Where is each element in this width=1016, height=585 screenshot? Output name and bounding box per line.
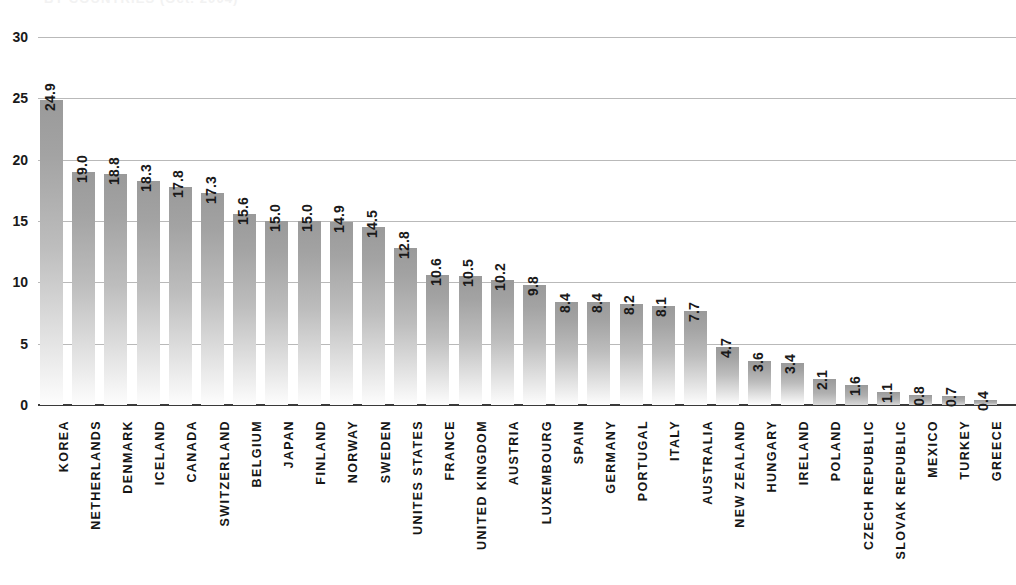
x-axis-label: FRANCE <box>443 420 457 480</box>
x-axis-label: KOREA <box>57 420 71 472</box>
bar-value-label: 19.0 <box>74 155 90 183</box>
bar-value-label: 10.5 <box>460 259 476 287</box>
bar <box>40 100 63 405</box>
bar-value-label: 7.7 <box>686 301 702 321</box>
x-axis-label: LUXEMBOURG <box>540 420 554 524</box>
bar-value-label: 12.8 <box>396 231 412 259</box>
bar-value-label: 3.6 <box>750 352 766 372</box>
x-axis-label: HUNGARY <box>765 420 779 493</box>
bar-value-label: 15.0 <box>267 204 283 232</box>
bar-value-label: 10.2 <box>492 263 508 291</box>
y-axis-tick-label: 30 <box>0 29 28 45</box>
x-axis-label: ICELAND <box>153 420 167 485</box>
x-axis-label: UNITES STATES <box>411 420 425 535</box>
bar <box>72 172 95 405</box>
bar-value-label: 15.0 <box>299 204 315 232</box>
x-axis-label: IRELAND <box>797 420 811 485</box>
x-axis-label: POLAND <box>829 420 843 481</box>
x-axis-label: NORWAY <box>346 420 360 483</box>
bar <box>298 221 321 405</box>
bar <box>394 248 417 405</box>
bar-value-label: 8.1 <box>653 297 669 317</box>
bar-value-label: 14.5 <box>364 210 380 238</box>
bar <box>523 285 546 405</box>
bar-value-label: 14.9 <box>331 205 347 233</box>
x-axis-label: CZECH REPUBLIC <box>862 420 876 550</box>
bar <box>459 276 482 405</box>
x-axis-label: SLOVAK REPUBLIC <box>894 420 908 560</box>
bar <box>330 222 353 405</box>
x-axis-label: PORTUGAL <box>636 420 650 501</box>
bar-value-label: 2.1 <box>814 370 830 390</box>
y-axis-tick-label: 15 <box>0 213 28 229</box>
bar-value-label: 18.8 <box>106 157 122 185</box>
x-axis-label: BELGIUM <box>250 420 264 487</box>
x-axis-label: GREECE <box>990 420 1004 481</box>
x-axis-label: CANADA <box>185 420 199 483</box>
bar <box>491 280 514 405</box>
y-axis-tick-label: 5 <box>0 336 28 352</box>
bar <box>620 304 643 405</box>
bar <box>169 187 192 405</box>
bar <box>137 181 160 405</box>
x-axis-label: SWEDEN <box>379 420 393 483</box>
x-axis-label: DENMARK <box>121 420 135 494</box>
bar <box>426 275 449 405</box>
x-axis-label: MEXICO <box>926 420 940 478</box>
gridline-30 <box>38 37 1016 38</box>
x-axis-label: JAPAN <box>282 420 296 468</box>
bar <box>233 214 256 405</box>
y-axis-tick-label: 10 <box>0 274 28 290</box>
bar-value-label: 17.3 <box>203 176 219 204</box>
bar-value-label: 3.4 <box>782 354 798 374</box>
bar-value-label: 8.4 <box>589 293 605 313</box>
y-axis-tick-label: 0 <box>0 397 28 413</box>
x-axis-label: ITALY <box>668 420 682 461</box>
bar <box>362 227 385 405</box>
x-axis-label: TURKEY <box>958 420 972 480</box>
x-axis-label: AUSTRALIA <box>701 420 715 505</box>
x-axis-label: NEW ZEALAND <box>733 420 747 528</box>
bar <box>265 221 288 405</box>
bar-value-label: 17.8 <box>170 170 186 198</box>
plot-area: 24.919.018.818.317.817.315.615.015.014.9… <box>38 37 1016 405</box>
x-axis-label: FINLAND <box>314 420 328 485</box>
x-axis-label: UNITED KINGDOM <box>475 420 489 550</box>
y-axis-tick-label: 25 <box>0 90 28 106</box>
bar <box>587 302 610 405</box>
x-axis-category-labels: KOREANETHERLANDSDENMARKICELANDCANADASWIT… <box>38 420 1016 585</box>
bar-value-label: 9.8 <box>525 276 541 296</box>
x-axis-label: AUSTRIA <box>507 420 521 485</box>
bar-value-label: 15.6 <box>235 197 251 225</box>
bar-value-label: 24.9 <box>42 82 58 110</box>
bar-value-label: 0.4 <box>975 391 991 411</box>
bar <box>104 174 127 405</box>
bar <box>201 193 224 405</box>
gridline-25 <box>38 98 1016 99</box>
bar-value-label: 1.6 <box>847 376 863 396</box>
bar-value-label: 10.6 <box>428 258 444 286</box>
bar <box>555 302 578 405</box>
bar-value-label: 18.3 <box>138 163 154 191</box>
y-axis-tick-label: 20 <box>0 152 28 168</box>
x-axis-label: SWITZERLAND <box>218 420 232 526</box>
x-axis-label: SPAIN <box>572 420 586 464</box>
chart-title: BY COUNTRIES (Oct. 2004) <box>44 0 238 6</box>
x-axis-label: GERMANY <box>604 420 618 494</box>
bar-value-label: 8.4 <box>557 293 573 313</box>
bar <box>652 306 675 405</box>
gridline-20 <box>38 160 1016 161</box>
bar-value-label: 8.2 <box>621 295 637 315</box>
bar-value-label: 4.7 <box>718 338 734 358</box>
x-axis-label: NETHERLANDS <box>89 420 103 530</box>
bar-value-label: 0.8 <box>911 386 927 406</box>
bar-value-label: 1.1 <box>879 382 895 402</box>
bar <box>684 311 707 405</box>
bar-value-label: 0.7 <box>943 387 959 407</box>
bar-chart: BY COUNTRIES (Oct. 2004) 051015202530 24… <box>0 0 1016 585</box>
